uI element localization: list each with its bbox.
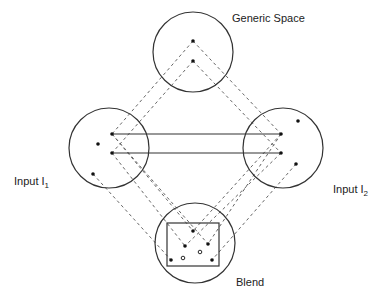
dashed-mapping-line (212, 164, 296, 260)
input1-element (110, 151, 114, 155)
blend-element (210, 258, 214, 262)
blend-element (181, 256, 185, 260)
dashed-mapping-line (193, 134, 281, 231)
dashed-mapping-line (112, 134, 208, 244)
dashed-mappings (93, 41, 296, 260)
input1-label: Input I1 (14, 175, 49, 190)
dashed-mapping-line (112, 153, 185, 246)
input2-text: Input I (333, 183, 364, 195)
input2-element (294, 162, 298, 166)
generic-circle (153, 12, 233, 92)
input1-text: Input I (14, 175, 45, 187)
input2-element (279, 132, 283, 136)
mental-spaces (69, 12, 323, 283)
input2-subscript: 2 (364, 189, 368, 198)
blend-element (169, 258, 173, 262)
input1-circle (69, 108, 149, 188)
dashed-mapping-line (93, 174, 171, 260)
generic-space-label: Generic Space (232, 12, 305, 24)
generic-element (191, 39, 195, 43)
dashed-mapping-line (193, 61, 281, 153)
input2-circle (243, 108, 323, 188)
dashed-mapping-line (112, 61, 193, 153)
input1-subscript: 1 (45, 181, 49, 190)
generic-element (191, 59, 195, 63)
blend-element (198, 250, 202, 254)
dashed-mapping-line (193, 41, 281, 134)
cross-space-mappings (112, 134, 281, 153)
blend-label: Blend (236, 276, 264, 288)
generic-space-text: Generic Space (232, 12, 305, 24)
input2-element (279, 151, 283, 155)
input2-element (296, 119, 300, 123)
blend-diagram (0, 0, 388, 298)
blend-element (206, 242, 210, 246)
input1-element (91, 172, 95, 176)
input1-element (110, 132, 114, 136)
blend-text: Blend (236, 276, 264, 288)
input2-label: Input I2 (333, 183, 368, 198)
dashed-mapping-line (112, 41, 193, 134)
blend-element (191, 229, 195, 233)
input1-element (96, 142, 100, 146)
blend-element (183, 244, 187, 248)
